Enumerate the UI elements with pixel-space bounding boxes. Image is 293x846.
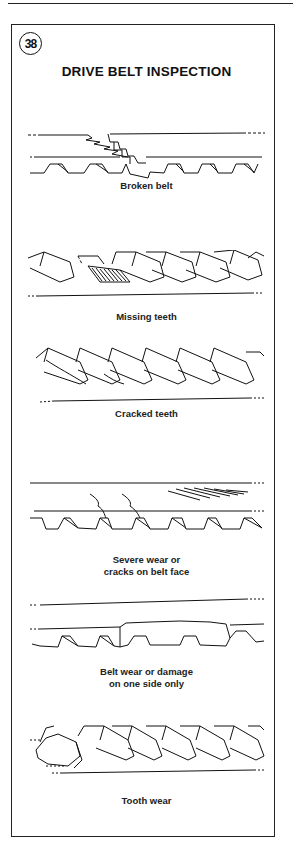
figure-title: DRIVE BELT INSPECTION [0, 64, 293, 79]
caption-broken-belt: Broken belt [0, 180, 293, 192]
page-top-rule [8, 3, 293, 4]
severe-wear-illustration [0, 475, 293, 555]
broken-belt-illustration [0, 128, 293, 188]
side-wear-illustration [0, 593, 293, 663]
caption-line: Severe wear or [0, 554, 293, 566]
caption-cracked-teeth: Cracked teeth [0, 408, 293, 420]
caption-missing-teeth: Missing teeth [0, 311, 293, 323]
caption-tooth-wear: Tooth wear [0, 795, 293, 807]
caption-line: Cracked teeth [0, 408, 293, 420]
caption-side-wear: Belt wear or damage on one side only [0, 666, 293, 690]
caption-line: cracks on belt face [0, 566, 293, 578]
caption-line: Tooth wear [0, 795, 293, 807]
missing-teeth-illustration [0, 250, 293, 320]
figure-number-badge: 38 [19, 32, 42, 55]
caption-line: Missing teeth [0, 311, 293, 323]
caption-line: on one side only [0, 678, 293, 690]
cracked-teeth-illustration [0, 342, 293, 412]
caption-line: Belt wear or damage [0, 666, 293, 678]
tooth-wear-illustration [0, 722, 293, 792]
caption-line: Broken belt [0, 180, 293, 192]
caption-severe-wear: Severe wear or cracks on belt face [0, 554, 293, 578]
